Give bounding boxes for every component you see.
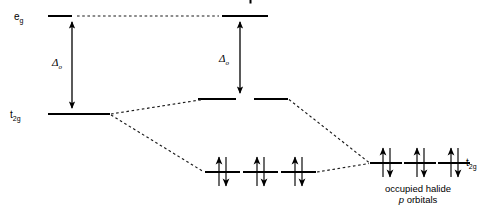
eg-level-group (48, 0, 268, 16)
diagram-canvas: eg t2g Δo Δo (0, 0, 492, 217)
t2g-left-label: t2g (10, 109, 21, 123)
halide-p-levels-group (370, 148, 470, 178)
bonding-levels-group (205, 157, 316, 187)
halide-caption-line-2: p orbitals (398, 194, 438, 205)
mo-energy-diagram: eg t2g Δo Δo (0, 0, 492, 217)
corr-left-to-antibonding (111, 100, 203, 115)
delta-o-left-label: Δo (51, 56, 62, 71)
halide-level-2 (404, 148, 436, 178)
delta-o-right-label: Δo (218, 52, 229, 67)
corr-left-to-bonding (111, 115, 204, 172)
corr-antibonding-to-halide (289, 100, 369, 163)
halide-level-1 (370, 148, 402, 178)
cropped-top-mark (250, 0, 252, 4)
eg-label: eg (14, 11, 24, 25)
t2g-right-label: t2g (466, 157, 477, 171)
correlation-lines (111, 100, 369, 173)
bonding-level-3 (281, 157, 316, 187)
bonding-level-1 (205, 157, 240, 187)
bonding-level-2 (243, 157, 278, 187)
halide-caption-line-1: occupied halide (385, 183, 451, 194)
corr-bonding-to-halide (317, 164, 369, 173)
